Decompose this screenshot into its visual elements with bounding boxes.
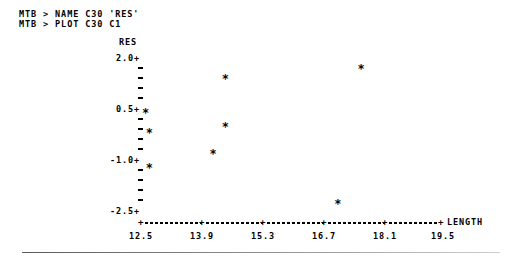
y-minor-tick — [138, 189, 143, 191]
y-minor-tick — [138, 128, 143, 130]
x-major-tick: + — [199, 217, 204, 227]
data-point — [335, 201, 340, 206]
x-major-tick: + — [260, 217, 265, 227]
x-tick-label-19.5: 19.5 — [420, 231, 466, 241]
data-point — [359, 66, 364, 71]
x-major-tick: + — [138, 217, 143, 227]
y-minor-tick — [138, 199, 143, 201]
scatter-plot-area: 2.0+ 0.5+ -1.0+ -2.5+ + + + + + + — [0, 0, 521, 263]
data-point — [147, 130, 152, 135]
x-tick-label-16.7: 16.7 — [301, 231, 347, 241]
data-point — [223, 124, 228, 129]
page-divider — [22, 252, 500, 253]
x-tick-label-13.9: 13.9 — [179, 231, 225, 241]
y-minor-tick — [138, 67, 143, 69]
y-minor-tick — [138, 97, 143, 99]
x-axis-segment — [145, 222, 202, 224]
y-minor-tick — [138, 169, 143, 171]
y-tick-label--2.5: -2.5+ — [82, 206, 140, 216]
x-axis-segment — [328, 222, 385, 224]
data-point — [147, 165, 152, 170]
y-minor-tick — [138, 138, 143, 140]
x-tick-label-18.1: 18.1 — [362, 231, 408, 241]
y-tick-label-2.0: 2.0+ — [82, 53, 140, 63]
x-axis-title: LENGTH — [447, 217, 483, 227]
y-minor-tick — [138, 148, 143, 150]
data-point — [223, 76, 228, 81]
x-axis-line: + + + + + + — [141, 222, 443, 224]
x-axis-segment — [267, 222, 324, 224]
minitab-plot-screen: MTB > NAME C30 'RES' MTB > PLOT C30 C1 R… — [0, 0, 521, 263]
x-major-tick: + — [321, 217, 326, 227]
x-tick-label-15.3: 15.3 — [240, 231, 286, 241]
x-axis-segment — [389, 222, 438, 224]
data-point — [143, 110, 148, 115]
y-minor-tick — [138, 179, 143, 181]
y-minor-tick — [138, 87, 143, 89]
x-major-tick: + — [382, 217, 387, 227]
x-axis-segment — [206, 222, 263, 224]
y-tick-label-0.5: 0.5+ — [82, 104, 140, 114]
y-tick-label--1.0: -1.0+ — [82, 155, 140, 165]
data-point — [211, 151, 216, 156]
x-major-tick: + — [438, 217, 443, 227]
x-tick-label-12.5: 12.5 — [118, 231, 164, 241]
y-minor-tick — [138, 77, 143, 79]
